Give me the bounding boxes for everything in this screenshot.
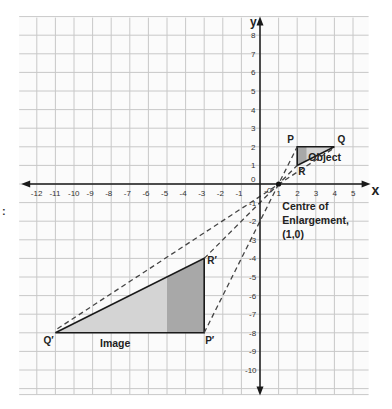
y-tick-label: 8 xyxy=(251,31,256,40)
object-label: Object xyxy=(308,151,341,163)
y-tick-label: 3 xyxy=(251,124,256,133)
centre-label-line3: (1,0) xyxy=(282,228,304,240)
x-axis-label: x xyxy=(372,182,380,198)
x-tick-label: 2 xyxy=(295,189,300,198)
y-tick-label: -2 xyxy=(249,217,257,226)
centre-label-line2: Enlargement, xyxy=(282,214,349,226)
y-axis-label: y xyxy=(250,15,257,29)
y-tick-label: 4 xyxy=(251,106,256,115)
point-label-q-prime: Q′ xyxy=(43,335,54,346)
y-tick-label: 1 xyxy=(251,161,256,170)
point-label-p-prime: P′ xyxy=(205,335,215,346)
y-tick-label: 7 xyxy=(251,50,256,59)
x-tick-label: -0 xyxy=(264,186,272,195)
x-tick-label: -5 xyxy=(161,189,169,198)
x-tick-label: -2 xyxy=(217,189,225,198)
centre-label-line1: Centre of xyxy=(282,200,329,212)
point-label-r: R xyxy=(298,166,306,177)
y-tick-label: -7 xyxy=(249,310,257,319)
point-label-r-prime: R′ xyxy=(207,255,217,266)
x-tick-label: -12 xyxy=(31,189,43,198)
y-tick-label: -10 xyxy=(245,366,257,375)
enlargement-diagram: -12-11-10-9-8-7-6-5-4-3-2-1-012345876543… xyxy=(0,0,392,409)
y-tick-label: -3 xyxy=(249,236,257,245)
y-tick-label: 2 xyxy=(251,143,256,152)
x-tick-label: 3 xyxy=(314,189,319,198)
x-tick-label: 4 xyxy=(332,189,337,198)
image-label: Image xyxy=(100,337,131,349)
centre-of-enlargement-point xyxy=(276,181,281,186)
x-tick-label: -8 xyxy=(105,189,113,198)
y-tick-label: -5 xyxy=(249,273,257,282)
y-tick-label: 0 xyxy=(251,175,256,184)
x-tick-label: -9 xyxy=(87,189,95,198)
y-tick-label: -6 xyxy=(249,292,257,301)
x-tick-label: -7 xyxy=(124,189,132,198)
x-tick-label: -6 xyxy=(142,189,150,198)
y-tick-label: -1 xyxy=(249,199,257,208)
x-tick-label: -4 xyxy=(180,189,188,198)
y-tick-label: 5 xyxy=(251,87,256,96)
x-tick-label: -3 xyxy=(198,189,206,198)
point-label-p: P xyxy=(287,134,294,145)
x-tick-label: -11 xyxy=(49,189,61,198)
y-tick-label: -8 xyxy=(249,329,257,338)
y-tick-label: -9 xyxy=(249,347,257,356)
x-tick-label: 1 xyxy=(277,189,282,198)
y-tick-label: 6 xyxy=(251,68,256,77)
point-label-q: Q xyxy=(337,134,345,145)
x-tick-label: 5 xyxy=(351,189,356,198)
x-tick-label: -1 xyxy=(235,189,243,198)
y-tick-label: -4 xyxy=(249,254,257,263)
x-tick-label: -10 xyxy=(68,189,80,198)
